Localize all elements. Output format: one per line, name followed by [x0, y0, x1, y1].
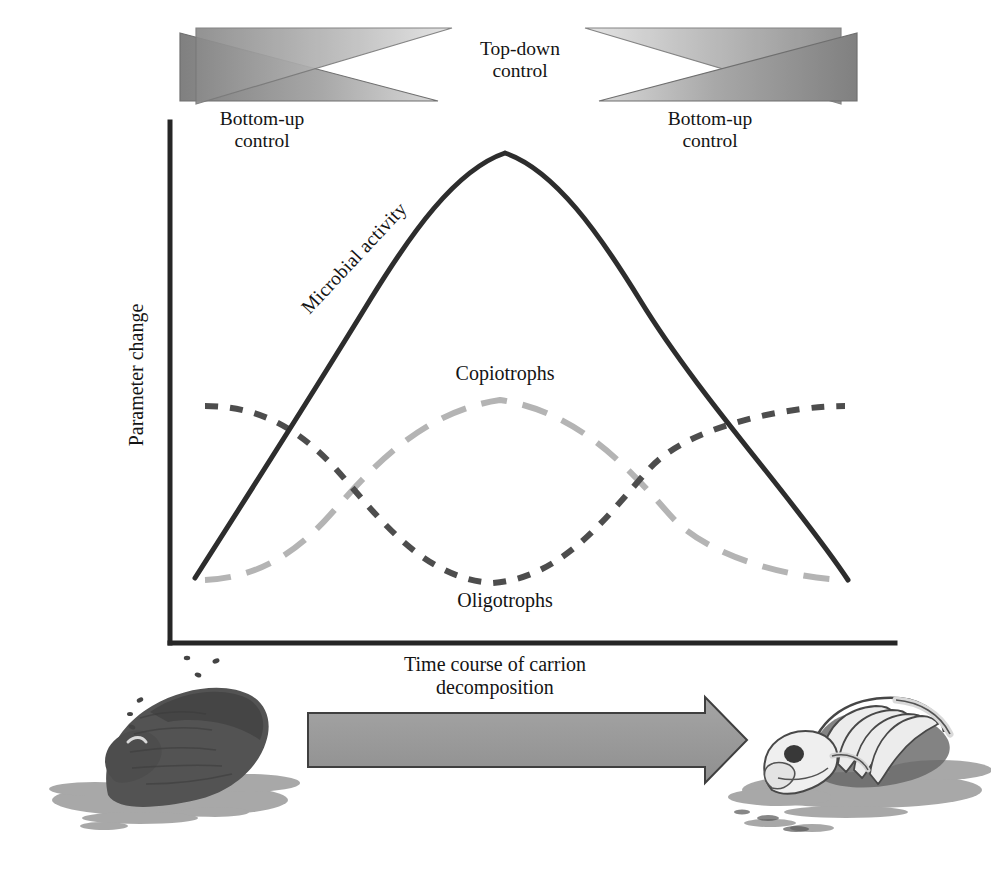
skeletal-remains-illustration [728, 698, 991, 832]
top-down-control-label: Top-down control [440, 38, 600, 82]
oligotrophs-label: Oligotrophs [405, 589, 605, 611]
right-wedge-group [585, 28, 857, 104]
time-arrow-shape [308, 697, 747, 783]
fresh-carcass-illustration [49, 656, 300, 830]
oligotrophs-curve [205, 406, 845, 583]
left-wedge-group [180, 28, 452, 104]
time-arrow [308, 697, 747, 783]
x-axis-label: Time course of carrion decomposition [355, 653, 635, 699]
figure-canvas [0, 0, 991, 886]
copiotrophs-curve [205, 400, 845, 580]
bottom-up-control-label-right: Bottom-up control [630, 108, 790, 152]
y-axis-label: Parameter change [125, 225, 147, 525]
copiotrophs-label: Copiotrophs [405, 362, 605, 384]
carrion-decomposition-figure: Top-down control Bottom-up control Botto… [0, 0, 991, 886]
bottom-up-control-label-left: Bottom-up control [182, 108, 342, 152]
